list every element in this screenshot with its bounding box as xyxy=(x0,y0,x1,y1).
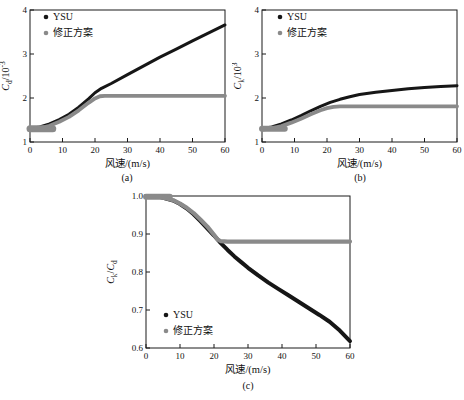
y-tick-label: 0.7 xyxy=(132,305,144,315)
figure-canvas: 01020304050601234风速/(m/s)Cd/10-3YSU修正方案 … xyxy=(0,0,464,400)
y-tick-label: 0.9 xyxy=(132,229,144,239)
x-tick-label: 60 xyxy=(346,351,356,361)
x-tick-label: 40 xyxy=(388,145,398,155)
series-YSU xyxy=(30,25,225,129)
legend-marker-corrected xyxy=(164,329,169,334)
legend-label: YSU xyxy=(53,11,74,22)
x-tick-label: 50 xyxy=(420,145,430,155)
x-tick-label: 30 xyxy=(244,351,254,361)
series-修正方案 xyxy=(262,106,457,129)
legend-marker-corrected xyxy=(44,31,49,36)
chart-c-caption: (c) xyxy=(100,380,360,391)
x-tick-label: 60 xyxy=(221,145,231,155)
x-tick-label: 0 xyxy=(28,145,33,155)
chart-a: 01020304050601234风速/(m/s)Cd/10-3YSU修正方案 … xyxy=(0,2,232,183)
legend-label: 修正方案 xyxy=(53,26,93,38)
legend-marker-corrected xyxy=(278,31,283,36)
series-修正方案 xyxy=(146,196,350,242)
y-tick-label: 4 xyxy=(23,5,28,15)
y-tick-label: 3 xyxy=(255,49,260,59)
x-tick-label: 30 xyxy=(123,145,133,155)
x-tick-label: 10 xyxy=(290,145,300,155)
y-tick-label: 2 xyxy=(23,93,28,103)
x-tick-label: 10 xyxy=(176,351,186,361)
x-tick-label: 20 xyxy=(210,351,220,361)
y-tick-label: 0.6 xyxy=(132,343,144,353)
legend-marker-ysu xyxy=(164,313,169,318)
chart-b-plot: 01020304050601234风速/(m/s)Ck/103YSU修正方案 xyxy=(232,2,464,172)
x-axis-label: 风速/(m/s) xyxy=(225,364,271,376)
chart-c-plot: 01020304050600.60.70.80.91.0风速/(m/s)Ck/C… xyxy=(100,190,360,380)
chart-b: 01020304050601234风速/(m/s)Ck/103YSU修正方案 (… xyxy=(232,2,464,183)
legend-label: 修正方案 xyxy=(173,324,213,336)
x-tick-label: 50 xyxy=(312,351,322,361)
chart-c: 01020304050600.60.70.80.91.0风速/(m/s)Ck/C… xyxy=(100,190,360,391)
x-tick-label: 20 xyxy=(91,145,101,155)
y-tick-label: 4 xyxy=(255,5,260,15)
legend-label: YSU xyxy=(287,11,308,22)
y-axis-label: Ck/103 xyxy=(232,62,246,89)
y-axis-label: Ck/Cd xyxy=(105,260,119,284)
x-tick-label: 40 xyxy=(278,351,288,361)
x-axis-label: 风速/(m/s) xyxy=(105,158,151,170)
x-tick-label: 30 xyxy=(355,145,365,155)
y-tick-label: 1 xyxy=(23,137,28,147)
series-修正方案 xyxy=(30,96,225,130)
y-tick-label: 0.8 xyxy=(132,267,144,277)
x-tick-label: 0 xyxy=(144,351,149,361)
x-tick-label: 0 xyxy=(260,145,265,155)
legend-marker-ysu xyxy=(44,15,49,20)
x-tick-label: 40 xyxy=(156,145,166,155)
x-tick-label: 10 xyxy=(58,145,68,155)
chart-b-caption: (b) xyxy=(232,172,464,183)
legend-marker-ysu xyxy=(278,15,283,20)
x-tick-label: 20 xyxy=(323,145,333,155)
y-axis-label: Cd/10-3 xyxy=(0,61,14,91)
x-axis-label: 风速/(m/s) xyxy=(337,158,383,170)
chart-a-caption: (a) xyxy=(0,172,232,183)
y-tick-label: 3 xyxy=(23,49,28,59)
x-tick-label: 60 xyxy=(453,145,463,155)
x-tick-label: 50 xyxy=(188,145,198,155)
legend-label: 修正方案 xyxy=(287,26,327,38)
chart-a-plot: 01020304050601234风速/(m/s)Cd/10-3YSU修正方案 xyxy=(0,2,232,172)
legend-label: YSU xyxy=(173,309,194,320)
y-tick-label: 2 xyxy=(255,93,260,103)
y-tick-label: 1.0 xyxy=(132,191,144,201)
y-tick-label: 1 xyxy=(255,137,260,147)
